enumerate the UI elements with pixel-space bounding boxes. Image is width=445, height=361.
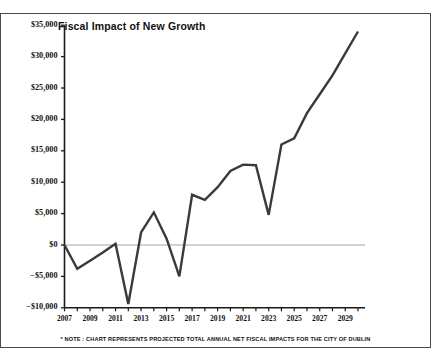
chart-footnote: * NOTE : CHART REPRESENTS PROJECTED TOTA… (0, 336, 431, 342)
y-axis-tick-label: $5,000 (6, 208, 58, 217)
y-axis-tick-label: $10,000 (6, 177, 58, 186)
data-series-line (65, 31, 359, 304)
y-axis-tick-label: $25,000 (6, 83, 58, 92)
y-axis-tick-label: $0 (6, 240, 58, 249)
y-axis-tick-label: $20,000 (6, 114, 58, 123)
y-axis-tick-label: −$10,000 (6, 302, 58, 311)
y-axis-tick-label: −$5,000 (6, 271, 58, 280)
y-axis-tick-label: $35,000 (6, 20, 58, 29)
axis-layer (61, 25, 365, 311)
chart-plot-area: −$10,000−$5,000$0$5,000$10,000$15,000$20… (0, 0, 445, 361)
y-axis-tick-label: $30,000 (6, 51, 58, 60)
x-axis-tick-label: 2029 (330, 314, 360, 323)
fiscal-impact-line-chart (0, 0, 445, 361)
y-axis-tick-label: $15,000 (6, 145, 58, 154)
